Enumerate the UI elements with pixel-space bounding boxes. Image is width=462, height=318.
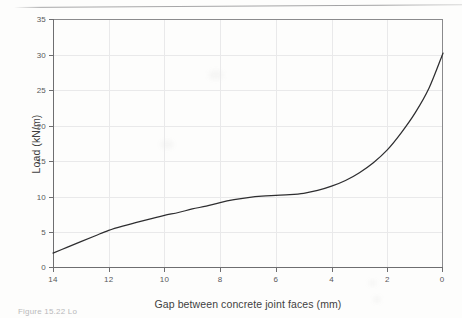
x-axis-title: Gap between concrete joint faces (mm) <box>53 298 443 310</box>
y-tick-label-35: 35 <box>37 15 46 24</box>
figure-caption: Figure 15.22 Lo <box>18 307 77 316</box>
x-tick-label-14: 14 <box>48 275 57 284</box>
figure-root: 35 30 25 20 15 10 5 0 14 12 10 8 6 4 2 0… <box>0 0 462 318</box>
x-tick-label-0: 0 <box>440 275 445 284</box>
x-tick-label-6: 6 <box>274 275 279 284</box>
y-tick-label-10: 10 <box>37 192 46 201</box>
scan-artifact-top-line <box>14 4 462 8</box>
series-load-vs-gap <box>53 19 443 268</box>
x-tick-label-8: 8 <box>218 275 223 284</box>
y-tick-label-25: 25 <box>37 86 46 95</box>
y-tick-label-5: 5 <box>41 228 46 237</box>
y-axis-title: Load (kN/m) <box>30 114 42 173</box>
x-tick-label-4: 4 <box>329 275 334 284</box>
y-tick-label-30: 30 <box>37 50 46 59</box>
x-tick-label-2: 2 <box>385 275 390 284</box>
scan-smudge <box>368 280 377 286</box>
x-tick-label-12: 12 <box>104 275 113 284</box>
plot-area: 35 30 25 20 15 10 5 0 14 12 10 8 6 4 2 0… <box>53 19 443 268</box>
y-tick-label-0: 0 <box>41 263 46 272</box>
x-tick-label-10: 10 <box>160 275 169 284</box>
